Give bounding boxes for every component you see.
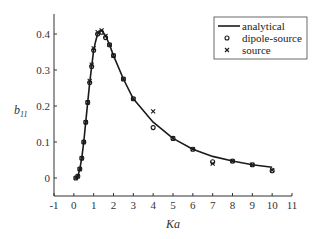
- chart: -10123456789101100.10.20.30.4 analytical…: [0, 0, 315, 239]
- y-tick-label: 0.2: [36, 100, 50, 112]
- x-tick-label: 5: [170, 199, 176, 211]
- dipole-source-marker: [151, 126, 155, 130]
- y-axis-label: b11: [14, 103, 27, 119]
- y-tick-label: 0.4: [36, 28, 50, 40]
- x-tick-label: 9: [250, 199, 256, 211]
- x-tick-label: 2: [111, 199, 117, 211]
- y-tick-label: 0: [45, 172, 51, 184]
- x-tick-label: 11: [287, 199, 298, 211]
- legend-label: analytical: [242, 20, 285, 32]
- x-tick-label: -1: [49, 199, 58, 211]
- x-tick-label: 7: [210, 199, 216, 211]
- x-tick-label: 8: [230, 199, 236, 211]
- legend: analyticaldipole-sourcesource: [214, 17, 307, 59]
- y-tick-label: 0.3: [36, 64, 50, 76]
- source-marker: [151, 109, 155, 113]
- x-tick-label: 1: [91, 199, 97, 211]
- legend-label: source: [242, 44, 271, 56]
- x-tick-label: 3: [131, 199, 137, 211]
- x-tick-label: 0: [71, 199, 77, 211]
- x-tick-label: 10: [267, 199, 279, 211]
- x-axis-label: Ka: [165, 217, 180, 231]
- legend-label: dipole-source: [242, 32, 302, 44]
- x-tick-label: 6: [190, 199, 196, 211]
- x-tick-label: 4: [150, 199, 156, 211]
- y-tick-label: 0.1: [36, 136, 50, 148]
